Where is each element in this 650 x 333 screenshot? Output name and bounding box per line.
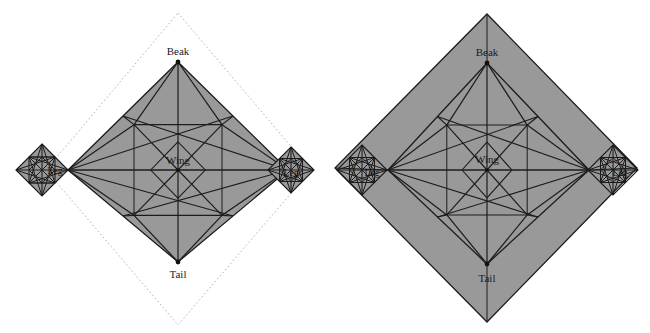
- left-crease-pattern-panel: BeakTailWingLegLeg: [0, 0, 325, 333]
- left-leg-left-label: Leg: [48, 166, 63, 176]
- right-leg-left-label: Leg: [365, 168, 380, 178]
- left-body-center-vertex: [176, 168, 180, 172]
- right-tail-label: Tail: [479, 272, 496, 284]
- right-crease-pattern-panel: BeakTailWingLegLeg: [325, 0, 650, 333]
- left-beak-label: Beak: [167, 45, 190, 57]
- right-pattern-canvas: BeakTailWingLegLeg: [325, 0, 650, 333]
- left-leg-right-label: Leg: [284, 168, 299, 178]
- left-pattern-canvas: BeakTailWingLegLeg: [0, 0, 325, 333]
- right-leg-right-label: Leg: [613, 168, 628, 178]
- crease-pattern-figure: BeakTailWingLegLeg BeakTailWingLegLeg: [0, 0, 650, 333]
- right-body-beak-vertex: [485, 61, 490, 66]
- left-body-tail-vertex: [176, 260, 181, 265]
- right-body-center-vertex: [485, 168, 489, 172]
- right-body-tail-vertex: [485, 262, 490, 267]
- right-beak-label: Beak: [476, 46, 499, 58]
- left-body-beak-vertex: [176, 60, 181, 65]
- right-wing-label: Wing: [475, 153, 499, 165]
- left-wing-label: Wing: [166, 154, 190, 166]
- left-tail-label: Tail: [170, 268, 187, 280]
